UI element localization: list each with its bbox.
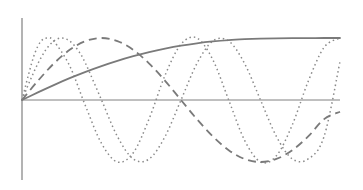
line-chart-figure [0, 0, 363, 190]
chart-canvas [0, 0, 363, 190]
chart-background [0, 0, 363, 190]
